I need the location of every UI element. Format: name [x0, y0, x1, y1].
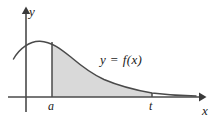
figure-container: y x a t y = f(x) — [0, 0, 217, 125]
tick-label-a: a — [48, 100, 54, 112]
y-axis-label: y — [29, 5, 35, 18]
x-axis-arrowhead-icon — [199, 93, 207, 102]
function-equation-label: y = f(x) — [100, 53, 142, 66]
tick-label-t: t — [149, 100, 152, 112]
x-axis-label: x — [202, 104, 208, 117]
